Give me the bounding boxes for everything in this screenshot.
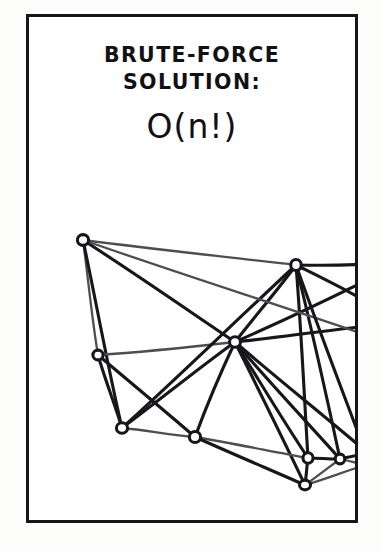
- graph-node-bottom-apex-node: [299, 480, 310, 490]
- graph-node-top-left-node: [77, 235, 88, 246]
- graph-edge-n3-n4: [122, 342, 235, 428]
- graph-node-hub-node: [230, 337, 241, 348]
- graph-node-bottom-mid-node: [189, 432, 200, 443]
- graph-edge-group: [83, 240, 358, 485]
- graph-edge-n6-n7: [195, 437, 308, 458]
- graph-svg: [29, 17, 358, 523]
- graph-node-left-lower-node: [116, 423, 127, 433]
- graph-node-upper-right-node: [291, 259, 302, 270]
- panel-frame: BRUTE-FORCE SOLUTION: O(n!): [26, 14, 358, 523]
- comic-panel: BRUTE-FORCE SOLUTION: O(n!): [0, 0, 381, 552]
- graph-edge-offpanel-0: [296, 264, 358, 265]
- graph-edge-n1-n3: [83, 240, 122, 428]
- graph-drawing: [29, 17, 355, 520]
- graph-edge-n4-n8: [235, 342, 340, 459]
- graph-edge-n2-n4: [98, 342, 235, 355]
- graph-node-right-edge-node: [335, 454, 345, 464]
- graph-edge-n4-n9: [235, 342, 305, 485]
- graph-edge-n6-n9: [195, 437, 305, 485]
- graph-edge-n4-n7: [235, 342, 308, 458]
- graph-node-bottom-right-node: [303, 453, 313, 464]
- graph-edge-offpanel-4: [235, 342, 358, 454]
- graph-node-left-mid-node: [93, 350, 103, 360]
- graph-edge-offpanel-8: [305, 464, 358, 485]
- graph-edge-n4-n5: [235, 265, 296, 342]
